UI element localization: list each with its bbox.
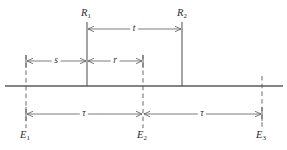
reference-marker-label-R1: R1 [81, 8, 91, 19]
dimension-label-s: s [52, 56, 61, 66]
dimension-label-r: r [111, 56, 120, 66]
dimension-label-tau-1: τ [80, 109, 88, 119]
dimension-label-tau-2: τ [198, 109, 206, 119]
diagram-canvas [0, 0, 287, 150]
dimension-label-t: t [130, 24, 138, 34]
event-marker-label-E2: E2 [137, 130, 147, 141]
event-marker-label-E1: E1 [20, 130, 30, 141]
event-marker-label-E3: E3 [256, 130, 266, 141]
reference-marker-label-R2: R2 [177, 8, 187, 19]
spacetime-interval-diagram: R1 R2 t s r τ τ E1 E2 E3 [0, 0, 287, 150]
